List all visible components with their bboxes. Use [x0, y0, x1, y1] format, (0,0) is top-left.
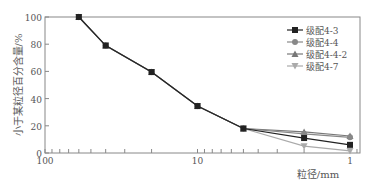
data-point [76, 14, 82, 20]
legend-label: 级配4-3 [306, 25, 339, 36]
data-point [195, 103, 201, 109]
grading-curve-chart: 020406080100 100101 级配4-3级配4-4级配4-4-2级配4… [0, 0, 389, 186]
legend-item: 级配4-4 [287, 37, 339, 48]
y-tick-label: 60 [31, 67, 43, 77]
data-point [240, 126, 246, 132]
x-tick-label: 100 [36, 156, 53, 166]
legend-marker [292, 27, 298, 33]
data-point [347, 142, 353, 148]
x-axis-label: 粒径/mm [297, 168, 340, 180]
legend-item: 级配4-4-2 [287, 49, 347, 60]
y-tick-label: 40 [31, 95, 43, 105]
y-axis-label: 小于某粒径百分含量/% [12, 34, 24, 137]
series-line [79, 17, 350, 145]
data-point [149, 69, 155, 75]
data-point [103, 43, 109, 49]
x-tick-label: 1 [347, 156, 353, 166]
x-tick-label: 10 [192, 156, 204, 166]
legend-marker [292, 39, 298, 45]
legend-label: 级配4-7 [306, 61, 339, 72]
y-tick-label: 80 [31, 40, 43, 50]
legend-label: 级配4-4 [306, 37, 339, 48]
y-tick-label: 20 [31, 122, 43, 132]
legend-item: 级配4-7 [287, 61, 339, 72]
legend-label: 级配4-4-2 [306, 49, 347, 60]
data-point [301, 135, 307, 141]
data-point [347, 134, 353, 140]
y-tick-label: 100 [25, 13, 42, 23]
legend-item: 级配4-3 [287, 25, 339, 36]
